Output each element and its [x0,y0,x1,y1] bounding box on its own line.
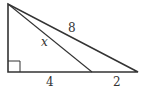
base-right-label: 2 [113,76,121,88]
hypotenuse-label: 8 [68,22,76,34]
right-angle-marker [8,61,20,72]
triangle-diagram [0,0,149,101]
cevian-line [8,4,92,72]
base-left-label: 4 [46,76,54,88]
outer-triangle [8,4,138,72]
cevian-label: x [41,36,48,48]
